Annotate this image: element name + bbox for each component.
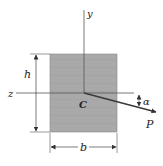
force-label: P (145, 118, 154, 131)
height-label: h (24, 68, 31, 81)
z-axis-label: z (7, 88, 14, 99)
beam-cross-section-diagram: y z C h b α P (0, 0, 163, 166)
centroid-label: C (79, 99, 87, 110)
y-axis-label: y (86, 8, 93, 19)
angle-label: α (143, 96, 150, 107)
width-label: b (80, 141, 87, 154)
